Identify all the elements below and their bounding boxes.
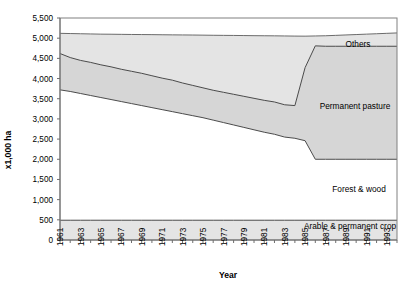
series-annotation-permanent-pasture: Permanent pasture: [320, 101, 391, 111]
x-axis-tick-label: 1981: [260, 227, 269, 246]
y-axis-tick-label: 2,000: [33, 155, 54, 164]
y-axis-tick-label: 5,500: [33, 14, 54, 23]
x-axis-tick-label: 1975: [199, 227, 208, 246]
y-axis-title: x1,000 ha: [3, 130, 13, 169]
x-axis-tick-label: 1967: [117, 227, 126, 246]
series-annotation-arable: Arable & permanent crop: [304, 221, 397, 231]
stacked-area-chart: 05001,0001,5002,0002,5003,0003,5004,0004…: [0, 0, 420, 285]
y-axis-tick-labels: 05001,0001,5002,0002,5003,0003,5004,0004…: [33, 14, 54, 245]
y-axis-tick-label: 500: [39, 216, 53, 225]
x-axis-tick-label: 1977: [220, 227, 229, 246]
y-axis-tick-label: 2,500: [33, 135, 54, 144]
series-annotation-others: Others: [346, 39, 371, 49]
x-axis-tick-label: 1971: [158, 227, 167, 246]
x-axis-title: Year: [219, 270, 238, 280]
y-axis-tick-label: 4,000: [33, 75, 54, 84]
x-axis-tick-label: 1965: [97, 227, 106, 246]
y-axis-tick-label: 0: [48, 236, 53, 245]
y-axis-tick-label: 3,500: [33, 95, 54, 104]
x-axis-tick-label: 1969: [138, 227, 147, 246]
y-axis-tick-label: 4,500: [33, 54, 54, 63]
chart-svg: 05001,0001,5002,0002,5003,0003,5004,0004…: [0, 0, 420, 285]
x-axis-tick-label: 1963: [77, 227, 86, 246]
x-axis-tick-label: 1973: [179, 227, 188, 246]
x-axis-tick-label: 1979: [240, 227, 249, 246]
y-axis-tick-label: 3,000: [33, 115, 54, 124]
x-axis-tick-label: 1961: [56, 227, 65, 246]
y-axis-tick-label: 1,000: [33, 196, 54, 205]
series-annotation-forest-wood: Forest & wood: [332, 184, 386, 194]
y-axis-tick-label: 1,500: [33, 175, 54, 184]
y-axis-tick-label: 5,000: [33, 34, 54, 43]
x-axis-tick-label: 1983: [281, 227, 290, 246]
